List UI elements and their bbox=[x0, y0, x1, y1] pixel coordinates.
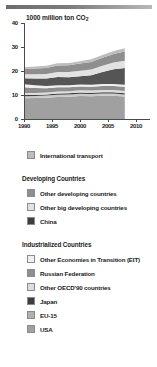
swatch-usa bbox=[27, 325, 35, 333]
chart-title-subscript: 2 bbox=[86, 16, 89, 22]
legend-item[interactable]: Other big developing countries bbox=[27, 200, 157, 214]
plot-area bbox=[24, 23, 136, 119]
area-band-usa bbox=[24, 96, 125, 119]
legend-item[interactable]: International transport bbox=[27, 148, 157, 162]
x-axis-line bbox=[24, 119, 150, 120]
legend-item-label: Other big developing countries bbox=[40, 204, 127, 211]
stacked-area-chart: 1000 million ton CO2 010203040 199019952… bbox=[0, 14, 157, 142]
legend-item[interactable]: Russian Federation bbox=[27, 266, 157, 280]
legend-group-title: Industrialized Countries bbox=[22, 241, 157, 248]
legend-spacer bbox=[0, 162, 157, 175]
legend-item-label: China bbox=[40, 218, 56, 225]
swatch-china bbox=[27, 217, 35, 225]
y-tick-mark bbox=[21, 71, 24, 72]
figure-panel: 1000 million ton CO2 010203040 199019952… bbox=[0, 0, 157, 367]
legend-item-label: Japan bbox=[40, 298, 57, 305]
y-tick-label: 10 bbox=[2, 92, 18, 98]
legend-item-label: USA bbox=[40, 326, 53, 333]
legend-item[interactable]: Other Economies in Transition (EIT) bbox=[27, 252, 157, 266]
y-tick-mark bbox=[21, 23, 24, 24]
swatch-other-developing-countries bbox=[27, 189, 35, 197]
x-tick-mark bbox=[80, 119, 81, 122]
legend-item-label: Russian Federation bbox=[40, 270, 95, 277]
legend-item-label: Other Economies in Transition (EIT) bbox=[40, 256, 140, 263]
legend-item[interactable]: Japan bbox=[27, 294, 157, 308]
swatch-other-big-developing-countries bbox=[27, 203, 35, 211]
chart-title-main: 1000 million ton CO bbox=[26, 14, 86, 21]
legend-item[interactable]: China bbox=[27, 214, 157, 228]
swatch-eu-15 bbox=[27, 311, 35, 319]
swatch-japan bbox=[27, 297, 35, 305]
plot-svg bbox=[24, 23, 136, 119]
swatch-international-transport bbox=[27, 151, 35, 159]
x-tick-mark bbox=[136, 119, 137, 122]
legend-groups-section: Developing CountriesOther developing cou… bbox=[0, 162, 157, 336]
legend-standalone-section: International transport bbox=[0, 148, 157, 162]
chart-title: 1000 million ton CO2 bbox=[26, 14, 88, 21]
legend-spacer bbox=[0, 228, 157, 241]
legend-item[interactable]: USA bbox=[27, 322, 157, 336]
x-tick-label: 2010 bbox=[124, 123, 148, 129]
x-tick-label: 1995 bbox=[40, 123, 64, 129]
chart-legend: International transport Developing Count… bbox=[0, 148, 157, 336]
legend-group-title: Developing Countries bbox=[22, 175, 157, 182]
x-tick-label: 1990 bbox=[12, 123, 36, 129]
y-tick-label: 30 bbox=[2, 44, 18, 50]
y-tick-label: 20 bbox=[2, 68, 18, 74]
swatch-russian-federation bbox=[27, 269, 35, 277]
y-axis-line bbox=[24, 23, 25, 120]
x-tick-label: 2000 bbox=[68, 123, 92, 129]
y-tick-mark bbox=[21, 95, 24, 96]
swatch-other-oecd90 bbox=[27, 283, 35, 291]
y-tick-mark bbox=[21, 47, 24, 48]
x-tick-label: 2005 bbox=[96, 123, 120, 129]
legend-item[interactable]: Other OECD'90 countries bbox=[27, 280, 157, 294]
legend-item-label: International transport bbox=[40, 152, 103, 159]
top-rule-bar bbox=[6, 5, 152, 9]
y-tick-label: 40 bbox=[2, 20, 18, 26]
x-tick-mark bbox=[108, 119, 109, 122]
legend-item[interactable]: EU-15 bbox=[27, 308, 157, 322]
x-tick-mark bbox=[52, 119, 53, 122]
swatch-other-eit bbox=[27, 255, 35, 263]
legend-item-label: Other developing countries bbox=[40, 190, 117, 197]
legend-item-label: EU-15 bbox=[40, 312, 57, 319]
x-tick-mark bbox=[24, 119, 25, 122]
legend-item[interactable]: Other developing countries bbox=[27, 186, 157, 200]
y-tick-label: 0 bbox=[2, 116, 18, 122]
legend-item-label: Other OECD'90 countries bbox=[40, 284, 111, 291]
